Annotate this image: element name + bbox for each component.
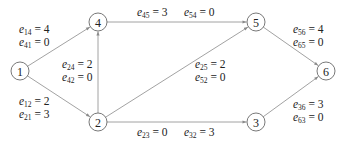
label-e63: e63 = 0 — [293, 110, 324, 128]
node-4: 4 — [89, 13, 107, 31]
node-6: 6 — [317, 62, 335, 80]
node-5: 5 — [247, 13, 265, 31]
node-label: 4 — [95, 16, 101, 30]
node-label: 3 — [253, 116, 259, 130]
label-e21: e21 = 3 — [19, 107, 50, 125]
node-1: 1 — [11, 62, 29, 80]
label-e23: e23 = 0 — [137, 125, 168, 143]
node-label: 5 — [253, 16, 259, 30]
edge-2-5 — [106, 27, 248, 117]
node-3: 3 — [247, 113, 265, 131]
label-e52: e52 = 0 — [195, 70, 226, 88]
label-e65: e65 = 0 — [293, 35, 324, 53]
node-label: 6 — [323, 65, 329, 79]
node-2: 2 — [89, 113, 107, 131]
nodes-layer: 123456 — [11, 13, 335, 131]
node-label: 2 — [95, 116, 101, 130]
label-e45: e45 = 3 — [137, 5, 168, 23]
node-label: 1 — [17, 65, 23, 79]
label-e42: e42 = 0 — [62, 70, 93, 88]
label-e32: e32 = 3 — [184, 125, 215, 143]
label-e41: e41 = 0 — [19, 35, 50, 53]
label-e54: e54 = 0 — [184, 5, 215, 23]
